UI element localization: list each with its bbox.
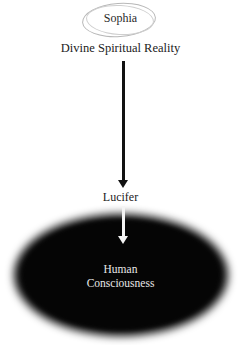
- arrow-down-icon: [118, 180, 128, 188]
- human-label-line2: Consciousness: [0, 276, 241, 290]
- divine-spiritual-reality-label: Divine Spiritual Reality: [0, 41, 241, 56]
- lucifer-label: Lucifer: [0, 190, 241, 205]
- white-arrow-shaft: [122, 206, 125, 238]
- arrow-down-shaft: [122, 61, 125, 182]
- white-arrow-down-icon: [118, 236, 128, 244]
- sophia-label: Sophia: [0, 11, 241, 26]
- human-label-line1: Human: [0, 262, 241, 276]
- human-consciousness-label: Human Consciousness: [0, 262, 241, 290]
